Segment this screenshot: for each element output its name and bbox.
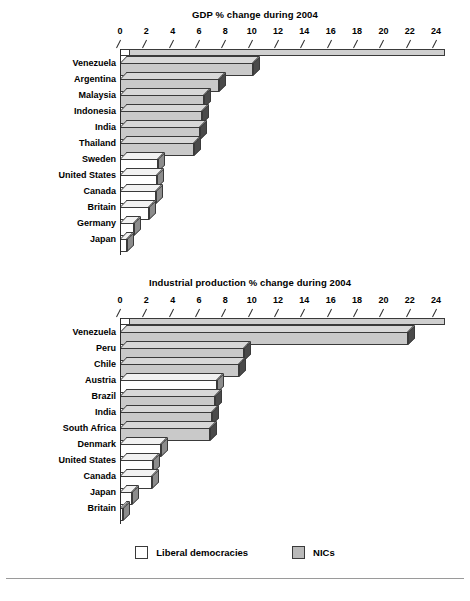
bar-liberal [120,168,166,184]
chart-row: Japan [0,485,470,501]
category-label: Canada [83,471,116,482]
bar-liberal [120,200,158,216]
axis-top-slab [129,49,445,56]
x-tick-label: 24 [431,295,441,305]
category-label: Canada [83,186,116,197]
x-tick-label: 12 [273,295,283,305]
x-tick-mark [300,309,305,317]
chart-panel-gdp: GDP % change during 2004 024681012141618… [0,0,470,265]
axis-top-slab [129,318,445,325]
x-tick-label: 18 [352,295,362,305]
x-tick-mark [432,309,437,317]
x-tick-label: 2 [144,295,149,305]
chart-row: Argentina [0,72,470,88]
bar-nic [120,421,219,437]
x-tick-label: 16 [326,295,336,305]
bar-top-face [120,56,260,63]
chart-row: United States [0,168,470,184]
x-tick-mark [248,309,253,317]
chart-row: Thailand [0,136,470,152]
category-label: Germany [77,218,116,229]
chart-row: Germany [0,216,470,232]
bar-liberal [120,232,136,248]
bar-liberal [120,485,141,501]
category-label: Austria [85,375,116,386]
bar-liberal [120,216,143,232]
x-tick-mark [142,40,147,48]
bar-top-face [120,373,224,380]
bar-nic [120,357,248,373]
legend-swatch-icon-nic [292,546,305,559]
x-tick-label: 12 [273,26,283,36]
x-tick-label: 22 [405,26,415,36]
bar-top-face [120,405,219,412]
x-tick-mark [248,40,253,48]
chart-row: Denmark [0,437,470,453]
chart-row: India [0,120,470,136]
bar-nic [120,389,224,405]
category-label: Denmark [77,439,116,450]
x-tick-mark [379,40,384,48]
x-tick-label: 8 [223,26,228,36]
legend-item-nics: NICs [292,546,335,559]
x-tick-label: 18 [352,26,362,36]
bar-top-face [120,357,245,364]
chart-row: Peru [0,341,470,357]
category-label: Japan [90,234,116,245]
category-label: Britain [87,503,116,514]
chart-page: GDP % change during 2004 024681012141618… [0,0,470,601]
bar-nic [120,104,211,120]
bar-nic [120,325,417,341]
x-tick-mark [142,309,147,317]
x-tick-mark [274,40,279,48]
x-tick-label: 10 [247,26,257,36]
x-tick-mark [353,309,358,317]
legend-label-nic: NICs [313,547,335,558]
chart-row: India [0,405,470,421]
bar-nic [120,88,213,104]
bar-top-face [120,104,208,111]
chart-row: Canada [0,469,470,485]
legend-swatch-icon-liberal [135,546,148,559]
category-label: United States [58,455,116,466]
chart-row: South Africa [0,421,470,437]
category-label: South Africa [63,423,116,434]
x-tick-mark [195,309,200,317]
x-tick-mark [379,309,384,317]
x-tick-label: 16 [326,26,336,36]
x-tick-mark [406,40,411,48]
category-label: Brazil [91,391,116,402]
x-tick-label: 14 [299,295,309,305]
category-label: Chile [94,359,116,370]
x-tick-label: 20 [378,26,388,36]
category-label: Thailand [79,138,116,149]
chart-row: United States [0,453,470,469]
x-tick-label: 22 [405,295,415,305]
x-tick-label: 6 [197,26,202,36]
bar-top-face [120,72,226,79]
bar-nic [120,136,203,152]
category-label: India [95,407,116,418]
bar-nic [120,341,253,357]
x-tick-mark [300,40,305,48]
category-label: Indonesia [74,106,116,117]
bar-top-face [120,136,201,143]
chart-row: Britain [0,200,470,216]
bar-nic [120,120,209,136]
x-tick-label: 8 [223,295,228,305]
category-label: Argentina [74,74,116,85]
category-label: Malaysia [78,90,116,101]
x-tick-mark [169,40,174,48]
bar-liberal [120,453,162,469]
bar-liberal [120,501,132,517]
category-axis-line [120,49,121,255]
x-tick-label: 14 [299,26,309,36]
bar-liberal [120,469,161,485]
x-tick-mark [327,40,332,48]
x-tick-mark [353,40,358,48]
bar-nic [120,72,228,88]
bar-liberal [120,437,170,453]
x-tick-mark [169,309,174,317]
chart-row: Sweden [0,152,470,168]
category-label: India [95,122,116,133]
